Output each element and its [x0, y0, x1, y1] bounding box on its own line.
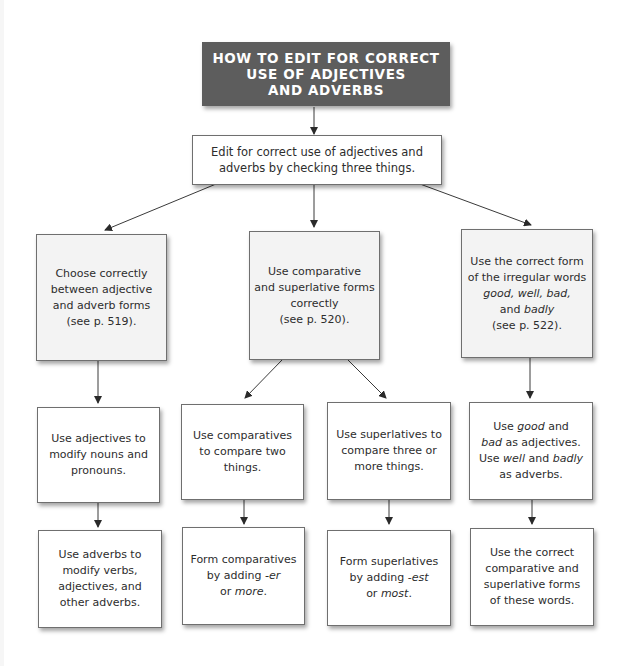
- box-line: modify verbs,: [62, 563, 137, 579]
- box-line: to compare two: [199, 444, 285, 460]
- intro-line: Edit for correct use of adjectives and: [211, 144, 423, 160]
- box-line: by adding -est: [350, 570, 429, 586]
- box-line: of the irregular words: [468, 270, 587, 286]
- box-line: (see p. 519).: [67, 314, 137, 330]
- main-box-adjective-adverb-forms: Choose correctly between adjective and a…: [36, 234, 167, 361]
- box-line: Choose correctly: [55, 266, 147, 282]
- intro-box: Edit for correct use of adjectives and a…: [192, 135, 442, 185]
- box-line: more things.: [354, 459, 424, 475]
- box-line: by adding -er: [207, 568, 280, 584]
- box-line: superlative forms: [484, 577, 580, 593]
- box-line: pronouns.: [71, 463, 126, 479]
- box-line: adjectives, and: [58, 579, 142, 595]
- title-line: HOW TO EDIT FOR CORRECT: [202, 50, 450, 66]
- box-line: Use comparatives: [193, 428, 292, 444]
- italic-word: badly: [524, 303, 554, 316]
- box-line: as adverbs.: [499, 467, 563, 483]
- box-line: Form comparatives: [190, 552, 296, 568]
- intro-line: adverbs by checking three things.: [219, 160, 415, 176]
- box-line: good, well, bad,: [483, 286, 571, 302]
- step-box-form-comparatives: Form comparatives by adding -er or more.: [182, 527, 305, 625]
- step-box-use-comparatives: Use comparatives to compare two things.: [181, 404, 304, 500]
- box-line: between adjective: [51, 282, 152, 298]
- box-line: Use adverbs to: [59, 547, 142, 563]
- box-line: things.: [224, 460, 262, 476]
- main-box-comparative-superlative: Use comparative and superlative forms co…: [249, 231, 380, 360]
- box-line: (see p. 522).: [492, 318, 562, 334]
- box-line: Use adjectives to: [51, 431, 146, 447]
- box-line: and superlative forms: [254, 280, 374, 296]
- page-edge: [0, 0, 4, 666]
- box-line: Form superlatives: [340, 554, 438, 570]
- title-line: AND ADVERBS: [202, 82, 450, 98]
- box-line: and adverb forms: [53, 298, 151, 314]
- step-box-use-adjectives: Use adjectives to modify nouns and prono…: [37, 407, 160, 503]
- box-line: (see p. 520).: [280, 312, 350, 328]
- box-line: of these words.: [490, 593, 574, 609]
- box-line: or more.: [220, 584, 267, 600]
- title-line: USE OF ADJECTIVES: [202, 66, 450, 82]
- step-box-use-adverbs: Use adverbs to modify verbs, adjectives,…: [38, 530, 162, 628]
- box-line: Use superlatives to: [336, 427, 442, 443]
- box-line: Use well and badly: [479, 451, 583, 467]
- box-line: Use comparative: [268, 264, 361, 280]
- box-line: bad as adjectives.: [481, 435, 581, 451]
- step-box-good-well-usage: Use good and bad as adjectives. Use well…: [469, 402, 593, 500]
- step-box-form-superlatives: Form superlatives by adding -est or most…: [327, 530, 451, 626]
- box-line: comparative and: [485, 561, 578, 577]
- box-line: modify nouns and: [49, 447, 148, 463]
- box-line: Use the correct: [490, 545, 574, 561]
- box-line: Use the correct form: [470, 254, 583, 270]
- box-line: correctly: [290, 296, 338, 312]
- main-box-irregular-words: Use the correct form of the irregular wo…: [461, 229, 593, 358]
- diagram-title: HOW TO EDIT FOR CORRECT USE OF ADJECTIVE…: [202, 42, 450, 106]
- box-line: other adverbs.: [60, 595, 141, 611]
- step-box-irregular-comparative-forms: Use the correct comparative and superlat…: [470, 528, 594, 626]
- box-line: and badly: [500, 302, 554, 318]
- box-line: or most.: [366, 586, 412, 602]
- box-line: Use good and: [493, 419, 569, 435]
- box-line: compare three or: [341, 443, 437, 459]
- step-box-use-superlatives: Use superlatives to compare three or mor…: [327, 402, 451, 500]
